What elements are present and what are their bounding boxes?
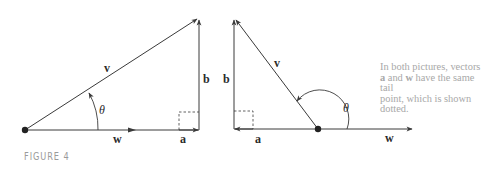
left-right-angle-box bbox=[179, 112, 199, 130]
right-tail-point bbox=[315, 126, 321, 132]
left-vector-v bbox=[25, 19, 197, 130]
left-theta-arc bbox=[89, 93, 98, 130]
caption-line-3: point, which is shown dotted. bbox=[380, 94, 489, 115]
left-vector-w-arrowhead bbox=[128, 128, 136, 133]
right-label-v: v bbox=[274, 56, 280, 70]
figure-caption: In both pictures, vectors a and w have t… bbox=[380, 62, 489, 115]
figure-number-label: FIGURE 4 bbox=[24, 150, 70, 162]
left-label-w: w bbox=[113, 132, 122, 146]
left-diagram: v w a b θ bbox=[22, 19, 210, 146]
caption-and: and bbox=[385, 72, 405, 83]
left-label-v: v bbox=[104, 61, 110, 75]
left-tail-point bbox=[22, 127, 28, 133]
left-label-a: a bbox=[180, 132, 186, 146]
left-label-theta: θ bbox=[99, 103, 105, 117]
right-vector-v bbox=[236, 20, 318, 129]
right-label-w: w bbox=[385, 131, 394, 145]
right-label-a: a bbox=[255, 132, 261, 146]
caption-vector-w: w bbox=[405, 72, 413, 83]
caption-line-2: a and w have the same tail bbox=[380, 73, 489, 94]
left-label-b: b bbox=[203, 72, 210, 86]
right-label-b: b bbox=[223, 72, 230, 86]
right-theta-arc bbox=[297, 90, 349, 129]
right-label-theta: θ bbox=[343, 101, 349, 115]
right-right-angle-box bbox=[234, 111, 253, 129]
